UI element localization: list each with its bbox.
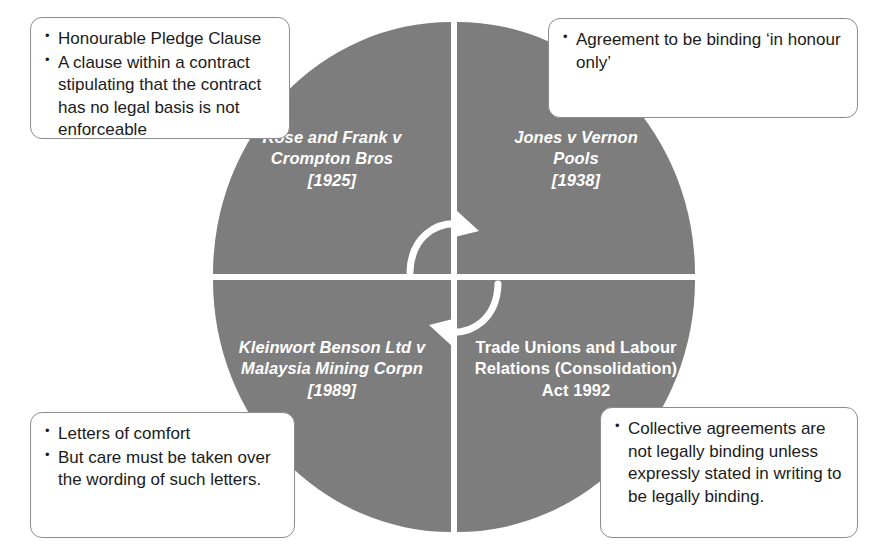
quadrant-label-line: [1989] <box>219 380 445 401</box>
quadrant-bottom-left-label: Kleinwort Benson Ltd v Malaysia Mining C… <box>213 337 451 401</box>
list-item: But care must be taken over the wording … <box>45 447 282 492</box>
quadrant-label-line: Jones v Vernon <box>467 127 685 148</box>
quadrant-top-right-label: Jones v Vernon Pools [1938] <box>457 127 695 191</box>
diagram-canvas: Rose and Frank v Crompton Bros [1925] Jo… <box>0 0 885 558</box>
quadrant-label-line: Crompton Bros <box>219 148 445 169</box>
callout-bottom-right[interactable]: Collective agreements are not legally bi… <box>600 407 858 538</box>
quadrant-label-line: [1925] <box>219 170 445 191</box>
list-item: A clause within a contract stipulating t… <box>45 52 277 142</box>
callout-top-left[interactable]: Honourable Pledge Clause A clause within… <box>30 17 290 139</box>
quadrant-label-line: Trade Unions and Labour <box>463 337 689 358</box>
quadrant-label-line: Pools <box>467 148 685 169</box>
quadrant-label-line: Relations (Consolidation) <box>463 358 689 379</box>
callout-bottom-left[interactable]: Letters of comfort But care must be take… <box>30 412 295 538</box>
quadrant-bottom-right-label: Trade Unions and Labour Relations (Conso… <box>457 337 695 401</box>
quadrant-label-line: Kleinwort Benson Ltd v <box>219 337 445 358</box>
list-item: Letters of comfort <box>45 423 282 446</box>
list-item: Collective agreements are not legally bi… <box>615 418 845 508</box>
callout-bottom-left-list: Letters of comfort But care must be take… <box>45 423 282 492</box>
list-item: Honourable Pledge Clause <box>45 28 277 51</box>
list-item: Agreement to be binding ‘in honour only’ <box>563 29 845 74</box>
quadrant-label-line: Malaysia Mining Corpn <box>219 358 445 379</box>
callout-top-left-list: Honourable Pledge Clause A clause within… <box>45 28 277 142</box>
callout-bottom-right-list: Collective agreements are not legally bi… <box>615 418 845 508</box>
quadrant-label-line: [1938] <box>467 170 685 191</box>
callout-top-right-list: Agreement to be binding ‘in honour only’ <box>563 29 845 74</box>
callout-top-right[interactable]: Agreement to be binding ‘in honour only’ <box>548 18 858 118</box>
quadrant-label-line: Act 1992 <box>463 380 689 401</box>
